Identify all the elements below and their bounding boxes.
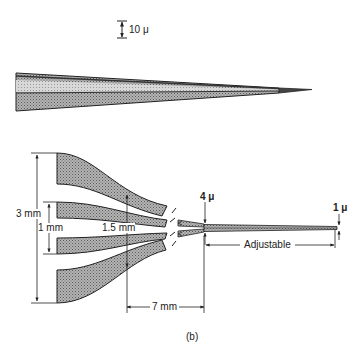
tip-length-label: Adjustable bbox=[244, 240, 291, 250]
scale-bar bbox=[117, 21, 127, 38]
mid-gap-label: 1.5 mm bbox=[102, 223, 135, 233]
fiber-bundle bbox=[57, 153, 337, 303]
outer-height-label: 3 mm bbox=[16, 209, 41, 219]
scale-bar-label: 10 μ bbox=[129, 25, 149, 35]
diagram-canvas bbox=[0, 0, 357, 348]
tapered-needle bbox=[16, 73, 312, 111]
figure-caption: (b) bbox=[186, 332, 198, 342]
taper-width-label: 4 μ bbox=[200, 192, 214, 202]
inner-height-label: 1 mm bbox=[38, 223, 63, 233]
tip-width-label: 1 μ bbox=[333, 203, 347, 213]
taper-length-label: 7 mm bbox=[150, 302, 179, 312]
